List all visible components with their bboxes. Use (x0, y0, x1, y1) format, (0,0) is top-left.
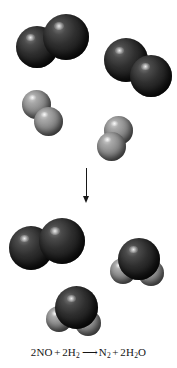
equation-arrow-icon: ⟶ (80, 346, 99, 359)
arrow-shaft (86, 168, 87, 198)
reactants-group (0, 0, 177, 160)
atom-oxygen (130, 55, 172, 97)
highlight-spec (111, 121, 118, 126)
highlight-spec (141, 63, 150, 70)
products-group (0, 212, 177, 344)
atom-hydrogen (97, 132, 126, 161)
down-arrow-icon (0, 160, 177, 212)
highlight-spec (115, 47, 124, 54)
chemical-equation: 2NO+2H2⟶N2+2H2O (0, 346, 177, 360)
atom-nitrogen (39, 218, 85, 264)
equation-product-1: N2 (99, 346, 111, 358)
molecule-water-2 (46, 286, 106, 340)
highlight-spec (29, 95, 36, 100)
equation-reactant-2: 2H2 (62, 346, 80, 358)
molecule-hydrogen-1 (22, 90, 66, 138)
atom-oxygen (118, 238, 160, 280)
highlight-spec (129, 246, 138, 253)
highlight-spec (20, 235, 29, 242)
equation-product-2: 2H2O (120, 346, 146, 358)
equation-group: 2NO+2H2⟶N2+2H2O (0, 344, 177, 368)
equation-reactant-1: 2NO (31, 346, 53, 358)
molecule-nitrogen-monoxide-2 (104, 38, 174, 96)
molecule-hydrogen-2 (97, 116, 141, 162)
atom-oxygen (55, 286, 98, 329)
molecule-nitrogen-monoxide-1 (16, 14, 92, 70)
highlight-spec (104, 137, 111, 142)
arrow-head (83, 196, 89, 203)
atom-oxygen (43, 14, 89, 60)
atom-hydrogen (34, 107, 63, 136)
equation-plus-left: + (53, 346, 62, 358)
highlight-spec (26, 34, 35, 41)
molecule-water-1 (110, 238, 168, 290)
highlight-spec (67, 295, 76, 302)
highlight-spec (50, 227, 60, 235)
reaction-arrow-group (0, 160, 177, 212)
molecule-dinitrogen (9, 218, 87, 270)
equation-plus-right: + (111, 346, 120, 358)
reaction-figure: 2NO+2H2⟶N2+2H2O (0, 0, 177, 368)
highlight-spec (41, 112, 48, 117)
highlight-spec (54, 22, 64, 30)
